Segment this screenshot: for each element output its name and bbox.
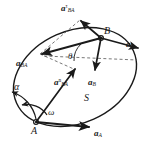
vector-label-a-BA: aBA [16,59,27,69]
body-label-S: S [84,93,89,103]
vector-subscript: BA [68,7,75,13]
vector-label-a-A-at-A: aA [94,129,102,139]
vector-subscript: BA [21,62,28,68]
angle-arc-theta [74,44,81,61]
vector-diagram [0,0,153,148]
body-outline-S [0,9,152,145]
vector-label-a-B: aB [88,78,96,88]
angle-label-omega: ω [48,108,54,117]
point-label-B: B [104,26,110,36]
vector-subscript: B [93,81,96,87]
angle-label-theta: θ [68,52,72,61]
figure-canvas: A B S θ α ω aA aB aBA aτBA anBA aA [0,0,153,148]
vector-subscript: BA [61,81,68,87]
vector-subscript: A [131,43,134,49]
vector-label-a-BA-normal: anBA [54,78,68,88]
vector-a-B [95,38,101,70]
vector-label-a-A-at-B: aA [126,40,134,50]
angle-label-alpha: α [14,82,19,92]
vector-label-a-BA-tangential: aτBA [61,4,75,14]
point-label-A: A [31,126,37,136]
vector-subscript: A [99,132,102,138]
vector-a-BA-tangential [81,21,101,38]
